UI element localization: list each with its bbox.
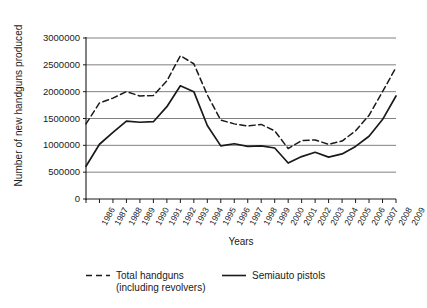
legend-dashed-line-icon bbox=[86, 270, 110, 281]
series-line-semiauto-pistols bbox=[86, 86, 396, 166]
legend-label-semiauto-pistols: Semiauto pistols bbox=[252, 270, 325, 282]
legend-label-total-handguns: Total handguns (including revolvers) bbox=[116, 270, 205, 294]
legend-item-total-handguns: Total handguns (including revolvers) bbox=[86, 270, 205, 294]
x-axis-title: Years bbox=[86, 236, 396, 247]
data-series-layer bbox=[86, 56, 396, 167]
legend-label-line1: Semiauto pistols bbox=[252, 270, 325, 282]
legend-label-line2: (including revolvers) bbox=[116, 282, 205, 294]
legend-solid-line-icon bbox=[222, 270, 246, 281]
legend-label-line1: Total handguns bbox=[116, 270, 205, 282]
chart-legend: Total handguns (including revolvers) Sem… bbox=[0, 266, 419, 306]
series-line-total-handguns bbox=[86, 56, 396, 149]
gridlines bbox=[86, 38, 396, 172]
legend-item-semiauto-pistols: Semiauto pistols bbox=[222, 270, 325, 282]
x-axis-tick-marks bbox=[86, 199, 396, 203]
